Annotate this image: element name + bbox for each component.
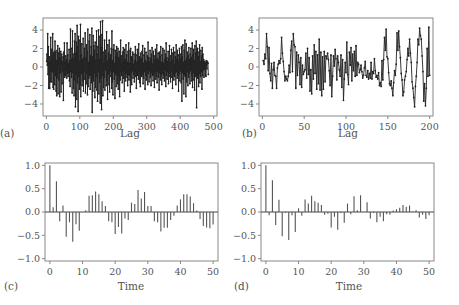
series-marker	[359, 69, 361, 71]
x-tick-label: 40	[390, 266, 402, 277]
series-marker	[100, 47, 102, 49]
x-tick-label: 10	[292, 266, 304, 277]
series-marker	[69, 60, 71, 62]
series-marker	[54, 74, 56, 76]
series-marker	[71, 59, 73, 61]
y-tick-label: 1.0	[25, 160, 40, 171]
series-marker	[178, 90, 180, 92]
panel-c-acf-bar-chart: −1.0−0.50.00.51.001020304050(c)Time	[4, 160, 219, 292]
series-marker	[310, 69, 312, 71]
series-marker	[181, 56, 183, 58]
series-marker	[171, 76, 173, 78]
x-tick-label: 300	[138, 121, 156, 132]
series-marker	[80, 96, 82, 98]
series-marker	[375, 76, 377, 78]
series-marker	[368, 78, 370, 80]
series-marker	[319, 89, 321, 91]
series-marker	[163, 49, 165, 51]
series-marker	[162, 48, 164, 50]
series-marker	[88, 61, 90, 63]
series-marker	[63, 99, 65, 101]
series-marker	[415, 86, 417, 88]
series-marker	[144, 60, 146, 62]
x-tick-label: 20	[325, 266, 337, 277]
series-marker	[322, 56, 324, 58]
series-marker	[330, 54, 332, 56]
series-marker	[381, 60, 383, 62]
series-marker	[181, 46, 183, 48]
series-marker	[158, 60, 160, 62]
series-marker	[400, 73, 402, 75]
series-marker	[168, 58, 170, 60]
series-marker	[156, 75, 158, 77]
series-marker	[113, 71, 115, 73]
series-marker	[207, 73, 209, 75]
series-marker	[106, 79, 108, 81]
series-marker	[57, 45, 59, 47]
series-marker	[119, 79, 121, 81]
series-marker	[410, 61, 412, 63]
series-marker	[117, 83, 119, 85]
series-marker	[165, 86, 167, 88]
series-marker	[307, 48, 309, 50]
series-marker	[102, 20, 104, 22]
series-marker	[169, 75, 171, 77]
series-marker	[177, 61, 179, 63]
series-marker	[395, 63, 397, 65]
series-marker	[110, 54, 112, 56]
series-marker	[275, 75, 277, 77]
series-marker	[52, 86, 54, 88]
series-marker	[424, 83, 426, 85]
series-marker	[104, 39, 106, 41]
series-marker	[48, 56, 50, 58]
series-marker	[272, 69, 274, 71]
series-marker	[134, 71, 136, 73]
series-marker	[130, 72, 132, 74]
series-marker	[307, 73, 309, 75]
series-marker	[206, 68, 208, 70]
series-marker	[384, 49, 386, 51]
series-marker	[55, 90, 57, 92]
series-marker	[105, 85, 107, 87]
series-marker	[281, 37, 283, 39]
series-marker	[67, 54, 69, 56]
series-marker	[312, 78, 314, 80]
series-marker	[313, 44, 315, 46]
series-marker	[49, 61, 51, 63]
series-marker	[328, 70, 330, 72]
series-marker	[79, 39, 81, 41]
series-marker	[170, 55, 172, 57]
series-marker	[399, 46, 401, 48]
series-marker	[291, 40, 293, 42]
x-axis-label: Time	[336, 280, 363, 292]
series-marker	[196, 77, 198, 79]
series-marker	[159, 56, 161, 58]
series-marker	[385, 28, 387, 30]
series-marker	[170, 81, 172, 83]
series-marker	[149, 70, 151, 72]
series-marker	[141, 73, 143, 75]
series-marker	[136, 49, 138, 51]
series-marker	[56, 49, 58, 51]
series-marker	[177, 74, 179, 76]
series-marker	[142, 62, 144, 64]
series-marker	[131, 84, 133, 86]
series-marker	[71, 76, 73, 78]
series-marker	[427, 75, 429, 77]
series-marker	[72, 30, 74, 32]
series-marker	[164, 80, 166, 82]
series-marker	[79, 88, 81, 90]
series-marker	[62, 70, 64, 72]
series-marker	[125, 73, 127, 75]
x-tick-label: 50	[298, 121, 310, 132]
series-marker	[113, 44, 115, 46]
series-marker	[56, 95, 58, 97]
series-marker	[167, 50, 169, 52]
y-tick-label: 4	[248, 24, 254, 35]
series-marker	[93, 72, 95, 74]
series-marker	[271, 87, 273, 89]
series-marker	[324, 81, 326, 83]
series-marker	[60, 91, 62, 93]
series-marker	[65, 69, 67, 71]
series-marker	[90, 46, 92, 48]
